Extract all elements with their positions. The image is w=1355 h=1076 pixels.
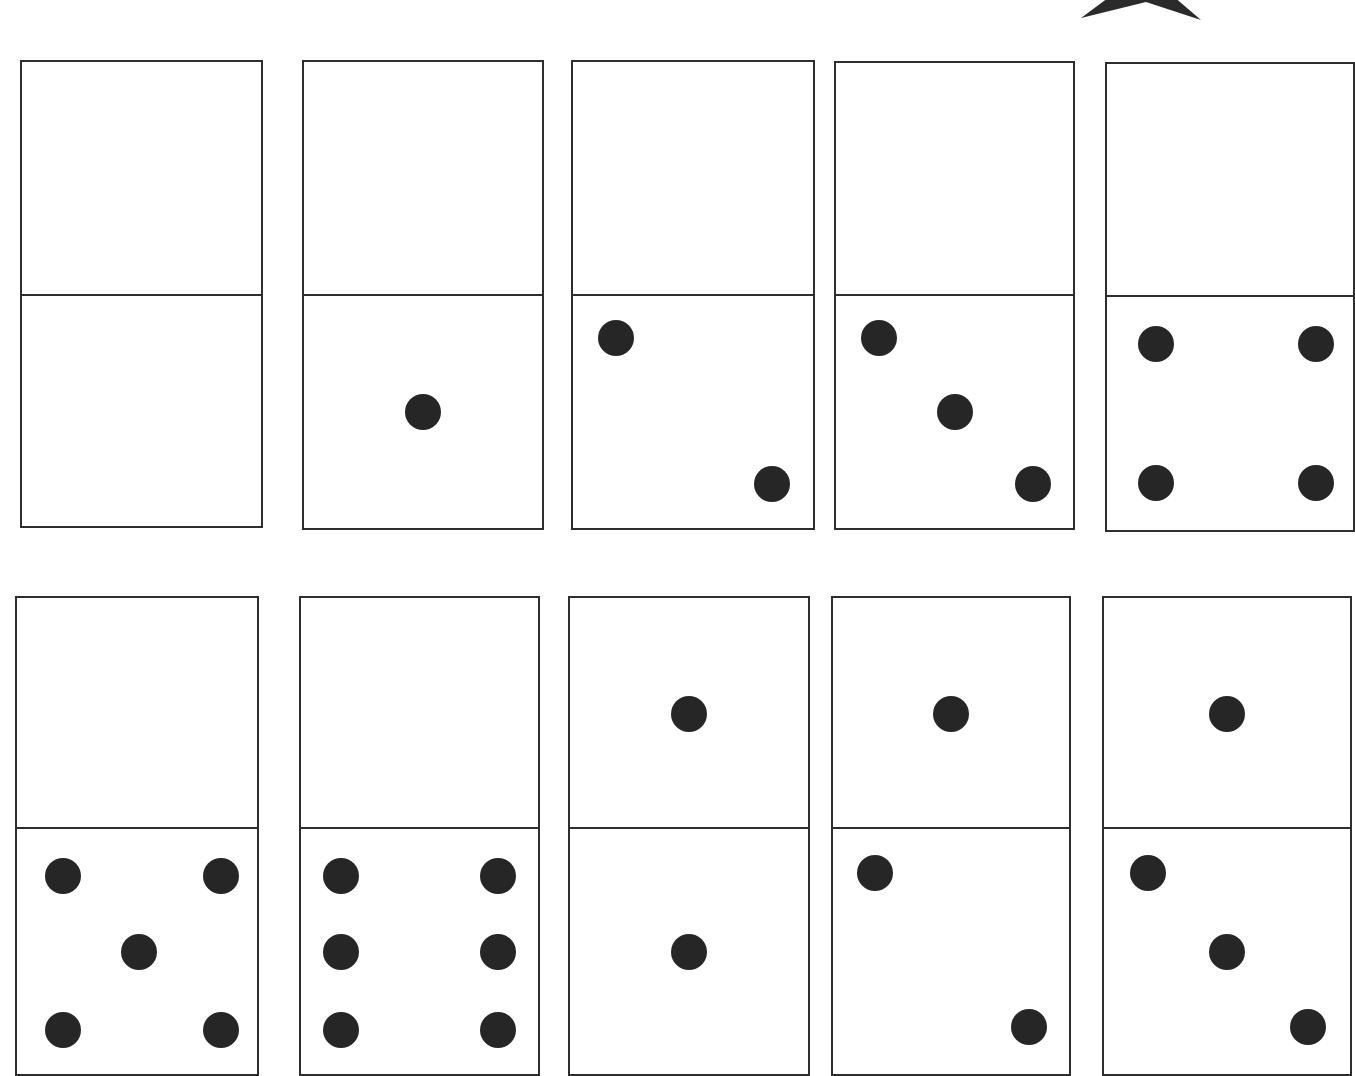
domino-half-top [17,598,257,829]
pip-dot-icon [323,934,359,970]
pip-dot-icon [937,394,973,430]
domino-0-6 [299,596,540,1076]
domino-half-top [1107,64,1353,297]
domino-1-2 [831,596,1071,1076]
pip-dot-icon [1298,465,1334,501]
pip-dot-icon [323,1012,359,1048]
domino-1-1 [568,596,810,1076]
domino-half-bottom [1104,827,1350,1074]
pip-dot-icon [1130,855,1166,891]
domino-half-top [1104,598,1350,829]
domino-0-2 [571,60,815,530]
domino-half-bottom [22,294,261,526]
domino-half-bottom [304,294,542,528]
pip-dot-icon [203,858,239,894]
domino-half-top [570,598,808,829]
domino-half-bottom [301,827,538,1074]
domino-0-0 [20,60,263,528]
pip-dot-icon [671,934,707,970]
domino-half-top [301,598,538,829]
pip-dot-icon [1209,934,1245,970]
pip-dot-icon [1290,1009,1326,1045]
pip-dot-icon [1209,696,1245,732]
domino-half-bottom [570,827,808,1074]
pip-dot-icon [1138,465,1174,501]
pip-dot-icon [857,855,893,891]
domino-half-top [304,62,542,296]
domino-0-4 [1105,62,1355,532]
pip-dot-icon [480,1012,516,1048]
pip-dot-icon [933,696,969,732]
pip-dot-icon [480,858,516,894]
pip-dot-icon [203,1012,239,1048]
domino-0-1 [302,60,544,530]
pip-dot-icon [45,1012,81,1048]
domino-half-bottom [17,827,257,1074]
domino-half-top [833,598,1069,829]
domino-1-3 [1102,596,1352,1076]
domino-half-top [22,62,261,296]
pip-dot-icon [861,320,897,356]
pip-dot-icon [1298,326,1334,362]
star-icon [1076,0,1206,22]
pip-dot-icon [1015,466,1051,502]
domino-0-5 [15,596,259,1076]
domino-0-3 [834,61,1075,530]
domino-half-bottom [833,827,1069,1074]
pip-dot-icon [405,394,441,430]
pip-dot-icon [323,858,359,894]
domino-half-bottom [1107,295,1353,530]
pip-dot-icon [45,858,81,894]
pip-dot-icon [480,934,516,970]
pip-dot-icon [121,934,157,970]
pip-dot-icon [1138,326,1174,362]
domino-half-top [573,62,813,296]
domino-half-bottom [836,294,1073,528]
pip-dot-icon [1011,1009,1047,1045]
pip-dot-icon [671,696,707,732]
domino-half-bottom [573,294,813,528]
pip-dot-icon [754,466,790,502]
pip-dot-icon [598,320,634,356]
domino-half-top [836,63,1073,296]
